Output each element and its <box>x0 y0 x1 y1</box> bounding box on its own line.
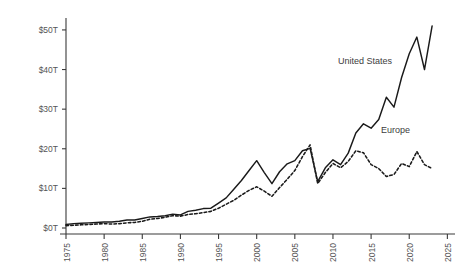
x-tick-label: 1980 <box>100 243 110 262</box>
x-axis-ticks: 1975198019851990199520002005201020152020… <box>62 234 453 262</box>
y-tick-label: $10T <box>39 183 58 193</box>
x-tick-label: 2000 <box>252 243 262 262</box>
y-tick-label: $50T <box>39 25 58 35</box>
economic-market-cap-line-chart: $0T$10T$20T$30T$40T$50T 1975198019851990… <box>0 0 465 278</box>
x-tick-label: 1995 <box>214 243 224 262</box>
y-tick-label: $0T <box>43 223 58 233</box>
chart-svg: $0T$10T$20T$30T$40T$50T 1975198019851990… <box>0 0 465 278</box>
y-tick-label: $40T <box>39 65 58 75</box>
x-tick-label: 2010 <box>328 243 338 262</box>
series-annotations: United StatesEurope <box>338 56 410 135</box>
x-tick-label: 1990 <box>176 243 186 262</box>
x-tick-label: 2005 <box>290 243 300 262</box>
y-axis: $0T$10T$20T$30T$40T$50T <box>39 18 66 234</box>
x-tick-label: 2025 <box>443 243 453 262</box>
y-axis-ticks: $0T$10T$20T$30T$40T$50T <box>39 25 66 233</box>
series-line-europe <box>66 145 432 226</box>
series-label-europe: Europe <box>381 125 410 135</box>
series-label-united-states: United States <box>338 56 393 66</box>
x-axis: 1975198019851990199520002005201020152020… <box>60 234 455 262</box>
y-tick-label: $20T <box>39 144 58 154</box>
y-tick-label: $30T <box>39 104 58 114</box>
x-tick-label: 1975 <box>62 243 72 262</box>
x-tick-label: 1985 <box>138 243 148 262</box>
x-tick-label: 2015 <box>367 243 377 262</box>
x-tick-label: 2020 <box>405 243 415 262</box>
